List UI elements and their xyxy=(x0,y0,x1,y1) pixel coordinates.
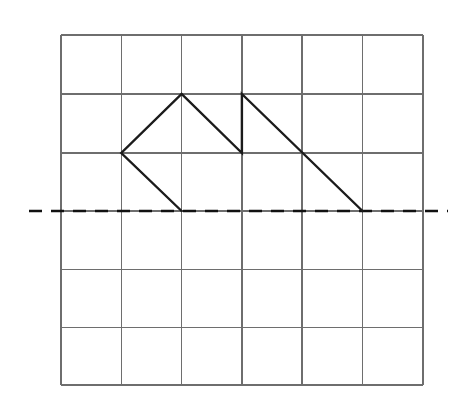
figure-canvas xyxy=(0,0,464,407)
grid-reflection-diagram xyxy=(0,0,464,407)
